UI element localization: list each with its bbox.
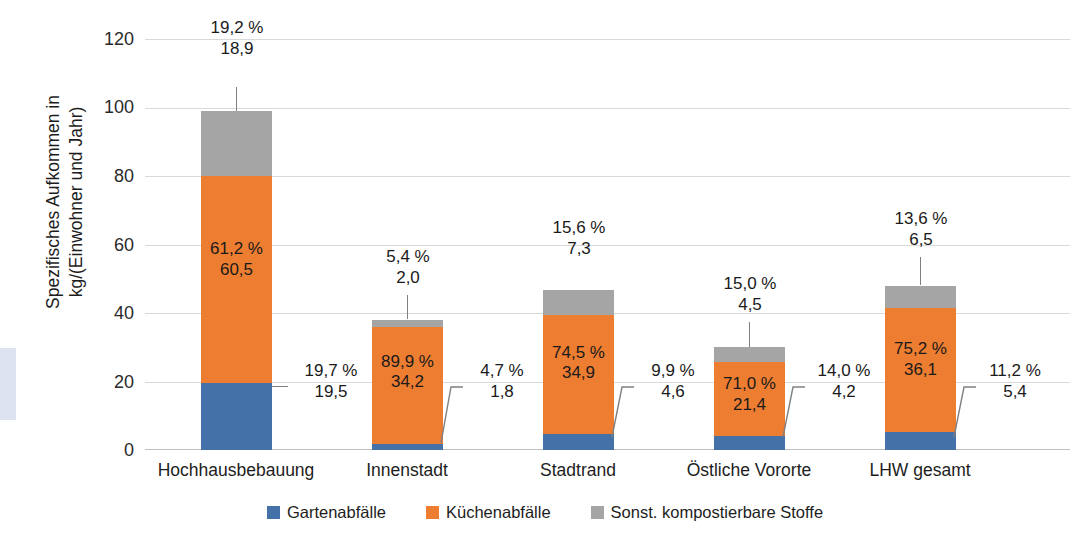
leader-line-gartenabfaelle-stadtrand (612, 381, 636, 441)
callout-gartenabfaelle-lhw-gesamt: 11,2 % 5,4 (973, 361, 1057, 402)
callout-pct: 19,2 % (195, 18, 279, 39)
x-label-oestliche-vororte: Östliche Vororte (687, 460, 812, 481)
segment-label-kuechenabfaelle: 74,5 % 34,9 (552, 343, 605, 384)
bar-segment-kuechenabfaelle[interactable]: 71,0 % 21,4 (714, 362, 785, 435)
bar-segment-kuechenabfaelle[interactable]: 74,5 % 34,9 (543, 315, 614, 435)
bar-segment-gartenabfaelle[interactable] (714, 436, 785, 450)
callout-pct: 9,9 % (631, 361, 715, 382)
bar-segment-sonstige[interactable] (201, 111, 272, 176)
leader-line-gartenabfaelle-hochhausbebauung (272, 386, 288, 387)
callout-sonstige-innenstadt: 5,4 % 2,0 (366, 247, 450, 288)
callout-pct: 15,6 % (537, 218, 621, 239)
gridline-120 (145, 39, 1070, 40)
callout-pct: 13,6 % (879, 209, 963, 230)
legend-item-gartenabfaelle[interactable]: Gartenabfälle (267, 503, 386, 522)
segment-label-kuechenabfaelle: 61,2 % 60,5 (210, 239, 263, 280)
segment-val: 36,1 (894, 360, 947, 381)
bar-segment-sonstige[interactable] (885, 286, 956, 308)
callout-sonstige-lhw-gesamt: 13,6 % 6,5 (879, 209, 963, 250)
square-swatch-icon (426, 506, 439, 519)
square-swatch-icon (591, 506, 604, 519)
y-tick-80: 80 (88, 166, 134, 187)
x-label-hochhausbebauung: Hochhausbebauung (158, 460, 315, 481)
callout-pct: 19,7 % (289, 361, 373, 382)
bar-segment-kuechenabfaelle[interactable]: 89,9 % 34,2 (372, 327, 443, 444)
y-tick-40: 40 (88, 303, 134, 324)
callout-val: 4,5 (708, 295, 792, 316)
y-tick-20: 20 (88, 372, 134, 393)
x-label-stadtrand: Stadtrand (540, 460, 616, 481)
segment-val: 21,4 (723, 395, 776, 416)
bar-segment-gartenabfaelle[interactable] (543, 434, 614, 450)
callout-pct: 14,0 % (802, 361, 886, 382)
segment-label-kuechenabfaelle: 75,2 % 36,1 (894, 339, 947, 380)
segment-pct: 75,2 % (894, 339, 947, 360)
callout-sonstige-hochhausbebauung: 19,2 % 18,9 (195, 18, 279, 59)
segment-pct: 74,5 % (552, 343, 605, 364)
bar-segment-gartenabfaelle[interactable] (201, 383, 272, 450)
leader-line-gartenabfaelle-innenstadt (441, 381, 465, 447)
y-axis-title-line2: kg/(Einwohner und Jahr) (65, 107, 88, 298)
callout-pct: 4,7 % (460, 361, 544, 382)
legend-label: Küchenabfälle (446, 503, 551, 522)
plot-area: 61,2 % 60,5 19,2 % 18,9 19,7 % 19,5 (145, 39, 1070, 450)
segment-label-kuechenabfaelle: 71,0 % 21,4 (723, 374, 776, 415)
legend-label: Gartenabfälle (287, 503, 386, 522)
legend-item-kuechenabfaelle[interactable]: Küchenabfälle (426, 503, 551, 522)
callout-gartenabfaelle-oestliche-vororte: 14,0 % 4,2 (802, 361, 886, 402)
leader-line-sonstige-hochhausbebauung (236, 87, 237, 111)
callout-val: 4,6 (631, 382, 715, 403)
bar-segment-kuechenabfaelle[interactable]: 61,2 % 60,5 (201, 176, 272, 383)
bar-segment-gartenabfaelle[interactable] (885, 432, 956, 451)
segment-val: 34,2 (381, 372, 434, 393)
callout-sonstige-stadtrand: 15,6 % 7,3 (537, 218, 621, 259)
leader-line-gartenabfaelle-oestliche-vororte (783, 381, 807, 441)
y-axis-title: Spezifisches Aufkommen in kg/(Einwohner … (35, 7, 95, 397)
callout-val: 1,8 (460, 382, 544, 403)
segment-pct: 71,0 % (723, 374, 776, 395)
bar-segment-sonstige[interactable] (714, 347, 785, 362)
square-swatch-icon (267, 506, 280, 519)
callout-pct: 15,0 % (708, 274, 792, 295)
segment-val: 34,9 (552, 363, 605, 384)
callout-sonstige-oestliche-vororte: 15,0 % 4,5 (708, 274, 792, 315)
callout-gartenabfaelle-stadtrand: 9,9 % 4,6 (631, 361, 715, 402)
y-tick-100: 100 (88, 97, 134, 118)
y-axis-tick-labels: 120 100 80 60 40 20 0 (88, 0, 134, 549)
callout-pct: 11,2 % (973, 361, 1057, 382)
segment-label-kuechenabfaelle: 89,9 % 34,2 (381, 352, 434, 393)
leader-line-sonstige-oestliche-vororte (749, 322, 750, 347)
legend-item-sonstige-kompostierbare-stoffe[interactable]: Sonst. kompostierbare Stoffe (591, 503, 823, 522)
callout-val: 4,2 (802, 382, 886, 403)
gridline-100 (145, 108, 1070, 109)
segment-val: 60,5 (210, 260, 263, 281)
callout-val: 7,3 (537, 239, 621, 260)
x-label-innenstadt: Innenstadt (366, 460, 448, 481)
callout-val: 18,9 (195, 39, 279, 60)
bar-segment-kuechenabfaelle[interactable]: 75,2 % 36,1 (885, 308, 956, 432)
leader-line-sonstige-lhw-gesamt (920, 257, 921, 285)
gridline-80 (145, 176, 1070, 177)
leader-line-sonstige-innenstadt (407, 295, 408, 319)
bar-segment-gartenabfaelle[interactable] (372, 444, 443, 450)
callout-val: 2,0 (366, 268, 450, 289)
callout-val: 5,4 (973, 382, 1057, 403)
x-label-lhw-gesamt: LHW gesamt (869, 460, 970, 481)
callout-val: 6,5 (879, 230, 963, 251)
y-tick-60: 60 (88, 235, 134, 256)
scan-artifact (0, 348, 16, 420)
leader-line-gartenabfaelle-lhw-gesamt (954, 381, 978, 441)
callout-gartenabfaelle-hochhausbebauung: 19,7 % 19,5 (289, 361, 373, 402)
legend-label: Sonst. kompostierbare Stoffe (611, 503, 823, 522)
chart-legend: Gartenabfälle Küchenabfälle Sonst. kompo… (0, 503, 1090, 522)
segment-pct: 89,9 % (381, 352, 434, 373)
y-tick-0: 0 (88, 440, 134, 461)
callout-gartenabfaelle-innenstadt: 4,7 % 1,8 (460, 361, 544, 402)
callout-val: 19,5 (289, 382, 373, 403)
segment-pct: 61,2 % (210, 239, 263, 260)
bar-segment-sonstige[interactable] (372, 320, 443, 327)
callout-pct: 5,4 % (366, 247, 450, 268)
y-axis-title-line1: Spezifisches Aufkommen in (42, 95, 65, 309)
bar-segment-sonstige[interactable] (543, 290, 614, 315)
stacked-bar-chart: Spezifisches Aufkommen in kg/(Einwohner … (0, 0, 1090, 549)
